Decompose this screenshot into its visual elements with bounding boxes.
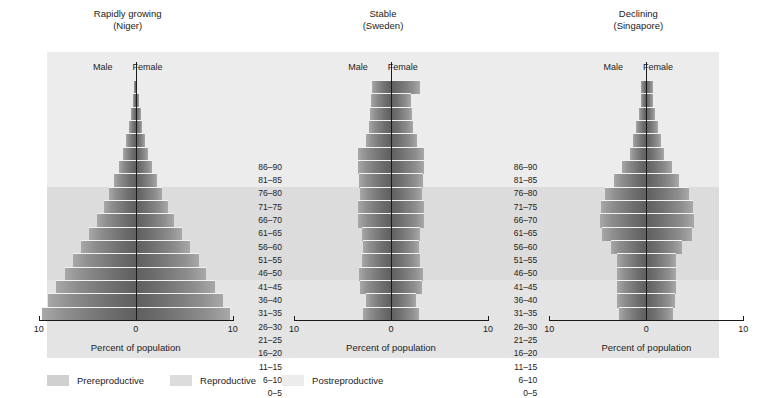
bar-male [360,280,391,294]
pyramid-row [0,187,255,200]
age-group-label: 21–25 [514,335,538,345]
bar-female [391,107,412,121]
bar-male [56,280,136,294]
bar-male [359,267,391,281]
bar-male [633,133,647,147]
age-group-label: 21–25 [258,335,282,345]
age-group-label: 71–75 [514,202,538,212]
pyramid-row [255,253,510,266]
age-group-label: 61–65 [514,228,538,238]
pyramid-row [0,80,255,93]
bar-female [646,213,694,227]
x-axis-line [39,320,233,321]
bar-female [136,147,149,161]
pyramid-row [511,240,766,253]
bar-female [391,293,416,307]
pyramid-niger: MaleFemale10010Percent of population [0,52,255,358]
plot-area-sweden [255,80,510,320]
bar-female [391,80,420,94]
pyramid-row [255,187,510,200]
x-axis-title-niger: Percent of population [8,342,263,353]
x-axis-tick-label: 10 [289,324,299,334]
x-axis-singapore: 10010Percent of population [511,320,766,321]
pyramid-row [255,133,510,146]
male-female-label-niger: MaleFemale [0,62,255,72]
pyramid-row [255,93,510,106]
age-group-label: 46–50 [258,268,282,278]
age-group-label: 26–30 [258,322,282,332]
x-axis-tick [646,316,647,320]
age-group-label: 31–35 [514,308,538,318]
chart-title-sweden-country: (Sweden) [255,20,510,32]
x-axis-tick-label: 0 [388,324,393,334]
x-axis-tick-label: 0 [644,324,649,334]
chart-title-singapore-type: Declining [511,8,766,20]
pyramid-row [255,147,510,160]
bar-male [639,107,647,121]
bar-female [646,227,692,241]
bar-female [136,200,168,214]
pyramid-row [0,107,255,120]
pyramid-row [255,107,510,120]
bar-female [136,307,230,321]
bar-male [104,200,136,214]
age-group-label: 86–90 [258,162,282,172]
pyramid-row [0,213,255,226]
bar-male [617,267,646,281]
bar-male [73,253,136,267]
bar-male [619,307,646,321]
pyramid-sweden: MaleFemale10010Percent of population86–9… [255,52,510,358]
bar-female [136,173,157,187]
x-axis-tick-label: 10 [544,324,554,334]
bar-female [136,280,216,294]
bar-female [646,93,653,107]
bar-female [391,93,411,107]
bar-male [362,253,391,267]
pyramid-row [511,160,766,173]
x-axis-niger: 10010Percent of population [0,320,255,321]
bar-male [358,213,391,227]
chart-title-singapore: Declining (Singapore) [511,8,766,52]
bar-female [646,307,673,321]
bar-female [646,280,676,294]
x-axis-tick [549,316,550,321]
bar-female [391,280,422,294]
bar-female [391,227,420,241]
bar-female [391,200,424,214]
bar-male [126,133,135,147]
legend-swatch [47,375,69,386]
bar-male [366,293,391,307]
male-female-label-sweden: MaleFemale [255,62,510,72]
bar-female [391,307,419,321]
bar-female [646,147,663,161]
x-axis-tick [743,316,744,321]
bar-female [646,133,661,147]
legend-swatch [282,375,304,386]
x-axis-tick-label: 0 [133,324,138,334]
bar-female [646,80,653,94]
age-group-label: 61–65 [258,228,282,238]
bar-male [617,280,646,294]
legend-item-prereproductive: Prereproductive [47,375,144,386]
x-axis-title-singapore: Percent of population [519,342,766,353]
legend: PrereproductiveReproductivePostreproduct… [47,372,409,388]
bar-rows-niger [0,80,255,320]
age-group-label: 11–15 [514,362,537,372]
bar-female [646,160,671,174]
bar-male [358,160,391,174]
bar-male [123,147,136,161]
x-axis-sweden: 10010Percent of population [255,320,510,321]
bar-male [622,160,646,174]
bar-male [602,227,647,241]
bar-male [371,93,391,107]
age-group-label: 46–50 [514,268,538,278]
legend-item-postreproductive: Postreproductive [282,375,383,386]
bar-male [358,200,391,214]
male-label-sweden: Male [348,62,368,72]
age-group-label: 56–60 [514,242,538,252]
x-axis-tick [294,316,295,321]
bar-female [391,213,424,227]
female-label-niger: Female [132,62,162,72]
bar-female [136,187,162,201]
bar-male [630,147,646,161]
